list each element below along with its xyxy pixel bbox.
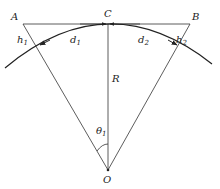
label-d1: d1 xyxy=(70,34,81,47)
label-h2: h2 xyxy=(176,34,187,47)
line-OB xyxy=(108,24,190,170)
point-A: A xyxy=(10,11,18,22)
point-C: C xyxy=(104,8,112,19)
label-theta: θ1 xyxy=(96,125,107,138)
line-OA xyxy=(23,24,108,170)
label-d2: d2 xyxy=(138,34,149,47)
label-h1: h1 xyxy=(17,34,28,47)
point-B: B xyxy=(191,11,199,22)
geometry-diagram: A C B O h1 d1 d2 h2 R θ1 xyxy=(0,0,220,189)
angle-arc xyxy=(97,144,108,151)
point-O: O xyxy=(103,174,111,185)
label-R: R xyxy=(111,73,120,84)
